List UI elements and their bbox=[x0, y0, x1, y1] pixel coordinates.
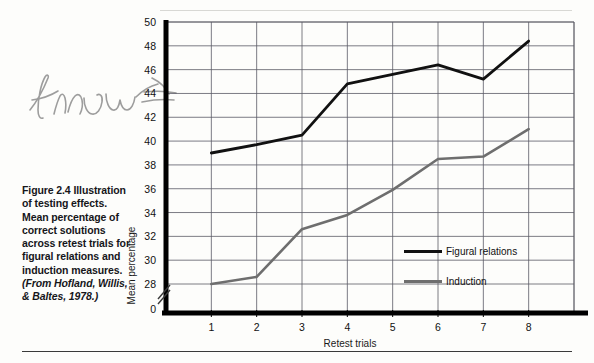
x-tick-label: 1 bbox=[196, 321, 226, 333]
legend-item: Figural relations bbox=[404, 246, 517, 257]
legend-item: Induction bbox=[404, 276, 487, 287]
x-tick-label: 3 bbox=[287, 321, 317, 333]
y-tick-label: 46 bbox=[128, 65, 156, 75]
x-axis-label-text: Retest trials bbox=[324, 338, 377, 349]
legend-swatch-icon bbox=[404, 280, 442, 283]
y-tick-label: 30 bbox=[128, 255, 156, 265]
x-tick-label: 6 bbox=[423, 321, 453, 333]
x-axis-label: Retest trials bbox=[0, 338, 594, 349]
legend-swatch-icon bbox=[404, 250, 442, 253]
bottom-rule bbox=[22, 351, 572, 352]
x-tick-label: 7 bbox=[468, 321, 498, 333]
legend-label: Induction bbox=[446, 276, 487, 287]
y-origin-label: 0 bbox=[128, 304, 156, 314]
x-tick-label: 8 bbox=[514, 321, 544, 333]
y-tick-label: 44 bbox=[128, 88, 156, 98]
y-tick-label: 48 bbox=[128, 41, 156, 51]
y-tick-label: 34 bbox=[128, 208, 156, 218]
y-tick-label: 32 bbox=[128, 231, 156, 241]
x-tick-label: 4 bbox=[332, 321, 362, 333]
x-tick-label: 5 bbox=[378, 321, 408, 333]
figure-page: Figure 2.4 Illustration of testing effec… bbox=[0, 0, 594, 363]
y-tick-label: 36 bbox=[128, 184, 156, 194]
y-tick-label: 38 bbox=[128, 160, 156, 170]
plot-area bbox=[0, 0, 594, 363]
x-tick-label: 2 bbox=[242, 321, 272, 333]
y-tick-label: 42 bbox=[128, 112, 156, 122]
y-tick-label: 40 bbox=[128, 136, 156, 146]
y-tick-label: 50 bbox=[128, 17, 156, 27]
legend-label: Figural relations bbox=[446, 246, 517, 257]
y-tick-label: 28 bbox=[128, 279, 156, 289]
line-chart: Mean percentage 283032343638404244464850… bbox=[0, 0, 594, 363]
